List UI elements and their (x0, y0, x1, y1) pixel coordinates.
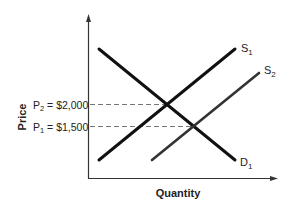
d1-label: D1 (240, 156, 253, 171)
y-axis-title: Price (16, 104, 28, 131)
x-axis-title: Quantity (156, 187, 201, 199)
x-axis-arrow-icon (270, 176, 278, 181)
axes (86, 14, 278, 181)
p2-label: P2 = $2,000 (33, 99, 88, 114)
s2-label: S2 (264, 64, 276, 79)
p1-label: P1 = $1,500 (33, 121, 88, 136)
y-axis-arrow-icon (86, 14, 91, 22)
s1-label: S1 (241, 42, 253, 57)
supply-line-s2 (152, 73, 259, 160)
supply-demand-diagram: S1 S2 D1 P2 = $2,000 P1 = $1,500 Price Q… (0, 0, 291, 209)
